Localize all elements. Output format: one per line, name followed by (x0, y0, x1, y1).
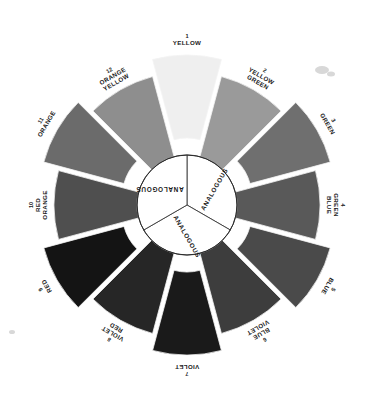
speck-mark (327, 72, 335, 77)
segment-label-group: 11ORANGE (31, 106, 57, 138)
segment-label-group: 9RED (34, 278, 52, 297)
segment-name-line: BLUE (326, 196, 333, 214)
color-wheel-svg: ANALOGOUSANALOGOUSANALOGOUS 1YELLOW2YELL… (0, 0, 371, 395)
segment-name-line: GREEN (319, 112, 337, 136)
segment-label-group: 10REDORANGE (28, 190, 48, 219)
segment-name-line: RED (34, 198, 41, 212)
segment-label-group: 4GREENBLUE (326, 193, 346, 217)
segment-label-group: 7VIOLET (175, 364, 199, 377)
segment-name-line: BLUE (320, 277, 335, 296)
segment-name-line: GREEN (333, 193, 340, 217)
segment-label-group: 3GREEN (319, 109, 342, 136)
segment-name-line: ORANGE (41, 190, 48, 219)
speck-mark (9, 330, 15, 334)
color-segment-green-blue[interactable] (235, 171, 320, 240)
segment-label-group: 5BLUE (320, 277, 340, 299)
segment-name-line: YELLOW (173, 39, 202, 46)
speck-mark (315, 66, 329, 74)
segment-label-group: 6BLUEVIOLET (246, 319, 277, 349)
segment-name-line: VIOLET (175, 364, 199, 371)
hub-label-group: ANALOGOUS (136, 186, 184, 193)
color-wheel-diagram: ANALOGOUSANALOGOUSANALOGOUS 1YELLOW2YELL… (0, 0, 371, 395)
color-segment-red-orange[interactable] (54, 171, 139, 240)
segment-label-group: 1YELLOW (173, 33, 202, 46)
segment-label-group: 8VIOLETRED (97, 319, 128, 349)
hub-label-analogous: ANALOGOUS (136, 186, 184, 193)
